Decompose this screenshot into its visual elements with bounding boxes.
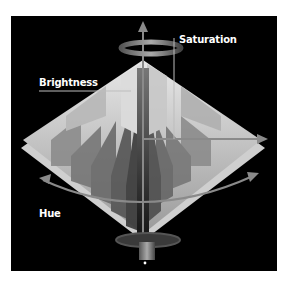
cone-graphic [11,16,277,271]
base-point [144,262,147,265]
saturation-arrow-head-icon [257,134,268,144]
hue-arrow-left-icon [39,174,51,184]
hsb-cone-diagram: Saturation Brightness Hue [11,16,277,271]
brightness-label: Brightness [39,77,98,88]
base-column [139,242,155,260]
brightness-arrow-head-icon [138,21,148,32]
saturation-ring [121,42,181,54]
hue-label: Hue [39,208,61,219]
hue-arrow-right-icon [247,172,259,182]
cone-shading-blocks [51,64,221,231]
saturation-label: Saturation [179,34,237,45]
